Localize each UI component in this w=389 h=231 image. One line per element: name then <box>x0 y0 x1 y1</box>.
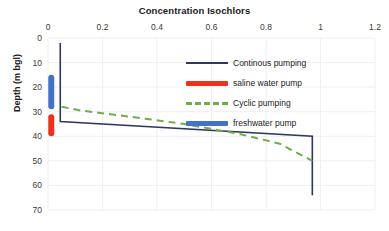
legend-swatch-dash <box>186 102 228 105</box>
legend-swatch-line <box>186 62 228 64</box>
chart-container: Concentration Isochlors Depth (m bgl) 00… <box>0 0 389 231</box>
legend-label: Cyclic pumping <box>233 98 291 108</box>
legend-swatch-bar <box>186 121 228 126</box>
legend-swatch-bar <box>186 81 228 86</box>
legend-label: freshwater pump <box>233 118 296 128</box>
legend-item[interactable]: Continous pumping <box>186 58 306 68</box>
legend-item[interactable]: saline water pump <box>186 78 302 88</box>
legend-label: saline water pump <box>233 78 302 88</box>
series-bar <box>48 114 54 136</box>
series-bar <box>48 75 54 109</box>
legend-item[interactable]: freshwater pump <box>186 118 296 128</box>
legend-item[interactable]: Cyclic pumping <box>186 98 291 108</box>
plot-area <box>0 0 389 231</box>
legend-label: Continous pumping <box>233 58 306 68</box>
